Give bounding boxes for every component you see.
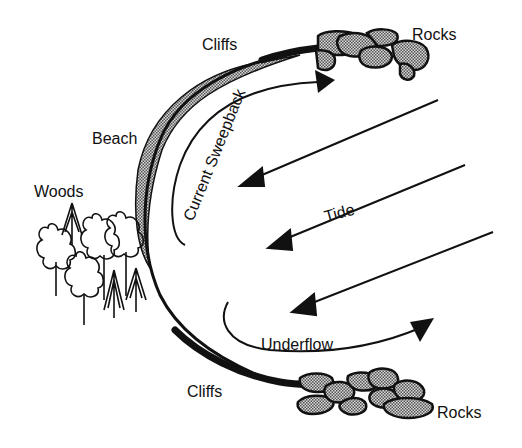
label-beach: Beach bbox=[92, 130, 137, 147]
rocks-bottom bbox=[298, 369, 433, 418]
label-rocks-top: Rocks bbox=[412, 26, 456, 43]
coastal-diagram: Cliffs Rocks Beach Woods Current Sweepba… bbox=[0, 0, 522, 448]
woods-trees bbox=[37, 203, 146, 325]
label-tide: Tide bbox=[322, 201, 356, 225]
label-cliffs-top: Cliffs bbox=[202, 36, 237, 53]
tide-arrows bbox=[240, 100, 493, 315]
label-rocks-bottom: Rocks bbox=[437, 404, 481, 421]
label-woods: Woods bbox=[34, 183, 84, 200]
label-underflow: Underflow bbox=[261, 336, 333, 353]
label-cliffs-bottom: Cliffs bbox=[187, 383, 222, 400]
